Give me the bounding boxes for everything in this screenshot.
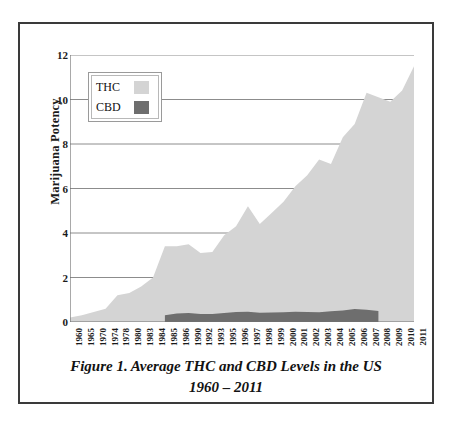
chart-area: Marijuana Potency 024681012 196019651970… bbox=[20, 24, 432, 354]
x-tick-1995: 1995 bbox=[228, 328, 238, 346]
y-tick-12: 12 bbox=[46, 49, 68, 61]
x-tick-2010: 2010 bbox=[406, 328, 416, 346]
x-tick-1960: 1960 bbox=[74, 328, 84, 346]
x-tick-1999: 1999 bbox=[276, 328, 286, 346]
x-tick-2006: 2006 bbox=[359, 328, 369, 346]
x-tick-1985: 1985 bbox=[169, 328, 179, 346]
x-tick-1990: 1990 bbox=[193, 328, 203, 346]
y-tick-10: 10 bbox=[46, 94, 68, 106]
legend-label-cbd: CBD bbox=[96, 100, 134, 115]
x-tick-2005: 2005 bbox=[347, 328, 357, 346]
x-tick-1997: 1997 bbox=[252, 328, 262, 346]
x-tick-1992: 1992 bbox=[204, 328, 214, 346]
figure-caption: Figure 1. Average THC and CBD Levels in … bbox=[20, 356, 432, 398]
y-tick-8: 8 bbox=[46, 138, 68, 150]
x-tick-1998: 1998 bbox=[264, 328, 274, 346]
chart-legend-inner: THC CBD bbox=[91, 75, 159, 119]
y-tick-0: 0 bbox=[46, 316, 68, 328]
y-tick-4: 4 bbox=[46, 227, 68, 239]
x-tick-2003: 2003 bbox=[323, 328, 333, 346]
legend-swatch-thc bbox=[134, 81, 149, 94]
x-tick-2004: 2004 bbox=[335, 328, 345, 346]
chart-legend: THC CBD bbox=[88, 72, 162, 122]
x-tick-2009: 2009 bbox=[394, 328, 404, 346]
x-tick-1965: 1965 bbox=[86, 328, 96, 346]
y-tick-6: 6 bbox=[46, 183, 68, 195]
x-tick-1983: 1983 bbox=[145, 328, 155, 346]
legend-item-thc: THC bbox=[96, 77, 154, 97]
legend-swatch-cbd bbox=[134, 101, 149, 114]
figure-caption-line-2: 1960 – 2011 bbox=[20, 377, 432, 398]
x-tick-2007: 2007 bbox=[371, 328, 381, 346]
x-tick-2000: 2000 bbox=[288, 328, 298, 346]
x-tick-1996: 1996 bbox=[240, 328, 250, 346]
legend-label-thc: THC bbox=[96, 80, 134, 95]
x-tick-1978: 1978 bbox=[121, 328, 131, 346]
x-tick-2002: 2002 bbox=[311, 328, 321, 346]
figure-caption-line-1: Figure 1. Average THC and CBD Levels in … bbox=[70, 358, 382, 374]
y-tick-2: 2 bbox=[46, 272, 68, 284]
x-tick-1984: 1984 bbox=[157, 328, 167, 346]
figure-frame: Marijuana Potency 024681012 196019651970… bbox=[18, 22, 434, 404]
x-tick-1980: 1980 bbox=[133, 328, 143, 346]
x-tick-2001: 2001 bbox=[299, 328, 309, 346]
x-tick-2008: 2008 bbox=[382, 328, 392, 346]
y-axis-tick-labels: 024681012 bbox=[44, 24, 68, 354]
x-tick-1986: 1986 bbox=[181, 328, 191, 346]
x-tick-1970: 1970 bbox=[98, 328, 108, 346]
x-tick-2011: 2011 bbox=[418, 328, 428, 346]
x-tick-1993: 1993 bbox=[216, 328, 226, 346]
legend-item-cbd: CBD bbox=[96, 97, 154, 117]
x-tick-1974: 1974 bbox=[110, 328, 120, 346]
